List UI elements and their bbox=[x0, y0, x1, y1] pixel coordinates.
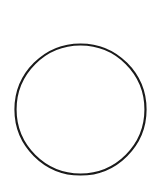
circle-outline bbox=[16, 45, 146, 175]
diagram-svg bbox=[0, 0, 158, 182]
diagram-canvas bbox=[0, 0, 158, 182]
